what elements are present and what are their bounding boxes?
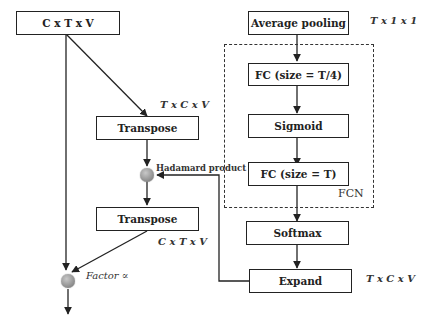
fc-quarter-box: FC (size = T/4)	[248, 63, 349, 86]
transpose-top-box: Transpose	[96, 116, 199, 140]
average-pooling-dims-label: T x 1 x 1	[370, 15, 417, 26]
softmax-box: Softmax	[246, 221, 349, 245]
hadamard-product-label: Hadamard product	[156, 163, 246, 173]
transpose-top-dims-label: T x C x V	[160, 99, 209, 110]
transpose-bottom-box: Transpose	[96, 207, 199, 231]
expand-box: Expand	[249, 269, 352, 293]
expand-dims-label: T x C x V	[366, 273, 415, 284]
fc-full-box: FC (size = T)	[248, 162, 349, 186]
fcn-label: FCN	[338, 187, 364, 200]
hadamard-product-node	[140, 168, 154, 182]
factor-node	[61, 274, 75, 288]
average-pooling-box: Average pooling	[248, 11, 349, 35]
transpose-bottom-dims-label: C x T x V	[158, 236, 207, 247]
sigmoid-box: Sigmoid	[248, 114, 349, 138]
factor-label: Factor ∝	[86, 270, 129, 281]
input-tensor-box: C x T x V	[16, 11, 120, 35]
